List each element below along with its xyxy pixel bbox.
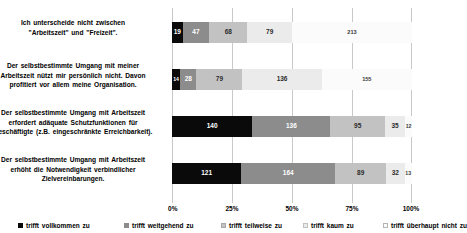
row-label-line: Ich unterscheide nicht zwischen (0, 18, 156, 28)
x-axis: 0%25%50%75%100% (172, 205, 412, 215)
segment-value: 14 (173, 77, 179, 82)
x-tick-label-1: 25% (225, 205, 238, 212)
legend-swatch-icon-4 (303, 223, 308, 228)
bar-segment-3-1: 140 (172, 116, 252, 137)
bar-segment-4-2: 164 (241, 163, 335, 184)
legend-item-5[interactable]: trifft überhaupt nicht zu (383, 222, 467, 229)
bar-row-4: 121164893213 (172, 163, 412, 184)
row-label-line: erhöht die Notwendigkeit verbindlicher (0, 165, 156, 175)
segment-value: 95 (354, 123, 361, 130)
bar-segment-1-3: 68 (209, 22, 247, 43)
bar-segment-1-5: 213 (292, 22, 412, 43)
segment-value: 35 (391, 123, 398, 130)
legend-item-1[interactable]: trifft vollkommen zu (18, 222, 90, 229)
bar-segment-2-5: 155 (322, 69, 412, 90)
segment-value: 79 (266, 29, 273, 36)
bar-row-1: 19476879213 (172, 22, 412, 43)
bar-row-3: 140136953512 (172, 116, 412, 137)
segment-value: 121 (201, 170, 212, 177)
row-label-line: Beschäftigte (z.B. eingeschränkte Erreic… (0, 127, 156, 137)
bar-segment-2-4: 136 (242, 69, 321, 90)
x-tick-label-4: 100% (403, 205, 420, 212)
legend-label: trifft überhaupt nicht zu (391, 222, 467, 229)
bar-segment-3-4: 35 (385, 116, 405, 137)
row-label-line: erfordert adäquate Schutzfunktionen für (0, 118, 156, 128)
segment-value: 13 (405, 171, 411, 176)
row-label-line: Zielvereinbarungen. (0, 174, 156, 184)
segment-value: 19 (174, 29, 181, 36)
bar-segment-4-1: 121 (172, 163, 241, 184)
row-label-4: Der selbstbestimmte Umgang mit Arbeitsze… (0, 155, 156, 184)
bar-segment-3-2: 136 (252, 116, 330, 137)
bar-segment-4-4: 32 (386, 163, 404, 184)
row-label-line: Der selbstbestimmte Umgang mit Arbeitsze… (0, 108, 156, 118)
row-label-line: profitiert vor allem meine Organisation. (0, 80, 156, 90)
bar-segment-4-3: 89 (335, 163, 386, 184)
segment-value: 79 (216, 76, 223, 83)
segment-value: 12 (406, 124, 412, 129)
bar-segment-3-3: 95 (330, 116, 385, 137)
segment-value: 68 (225, 29, 232, 36)
row-label-line: Der selbstbestimmte Umgang mit Arbeitsze… (0, 155, 156, 165)
bar-segment-1-1: 19 (172, 22, 183, 43)
segment-value: 89 (357, 170, 364, 177)
segment-value: 47 (192, 29, 199, 36)
legend-swatch-icon-1 (18, 223, 23, 228)
bar-segment-2-2: 28 (180, 69, 196, 90)
bar-segment-4-5: 13 (405, 163, 412, 184)
bar-segment-2-1: 14 (172, 69, 180, 90)
segment-value: 32 (392, 170, 399, 177)
legend-item-4[interactable]: trifft kaum zu (303, 222, 354, 229)
legend-swatch-icon-5 (383, 223, 388, 228)
bar-segment-3-5: 12 (405, 116, 412, 137)
x-tick-label-3: 75% (345, 205, 358, 212)
segment-value: 136 (286, 123, 297, 130)
chart-legend: trifft vollkommen zutrifft weitgehend zu… (18, 220, 418, 231)
legend-label: trifft kaum zu (311, 222, 354, 229)
bar-segment-1-2: 47 (183, 22, 209, 43)
segment-value: 140 (207, 123, 218, 130)
segment-value: 164 (283, 170, 294, 177)
legend-label: trifft vollkommen zu (26, 222, 90, 229)
row-label-line: Der selbstbestimmte Umgang mit meiner (0, 61, 156, 71)
legend-swatch-icon-3 (221, 223, 226, 228)
segment-value: 28 (185, 76, 192, 83)
row-label-line: "Arbeitszeit" und "Freizeit". (0, 28, 156, 38)
row-label-3: Der selbstbestimmte Umgang mit Arbeitsze… (0, 108, 156, 137)
bar-segment-1-4: 79 (247, 22, 292, 43)
legend-item-3[interactable]: trifft teilweise zu (221, 222, 282, 229)
segment-value: 136 (277, 76, 288, 83)
x-tick-label-0: 0% (168, 205, 177, 212)
x-tick-label-2: 50% (285, 205, 298, 212)
bar-row-2: 142879136155 (172, 69, 412, 90)
segment-value: 213 (347, 30, 356, 36)
legend-swatch-icon-2 (124, 223, 129, 228)
segment-value: 155 (362, 77, 371, 83)
plot-area: Ich unterscheide nicht zwischen"Arbeitsz… (172, 8, 412, 203)
row-label-line: Arbeitszeit nützt mir persönlich nicht. … (0, 71, 156, 81)
legend-label: trifft weitgehend zu (132, 222, 194, 229)
row-label-2: Der selbstbestimmte Umgang mit meinerArb… (0, 61, 156, 90)
row-label-1: Ich unterscheide nicht zwischen"Arbeitsz… (0, 18, 156, 37)
legend-label: trifft teilweise zu (229, 222, 282, 229)
legend-item-2[interactable]: trifft weitgehend zu (124, 222, 194, 229)
bar-segment-2-3: 79 (196, 69, 242, 90)
